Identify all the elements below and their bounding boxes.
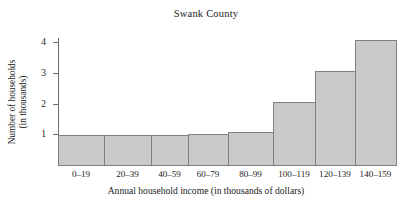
- bar-series: [58, 31, 396, 166]
- x-axis-tick-label: 0–19: [58, 168, 104, 181]
- bar: [228, 132, 274, 166]
- y-axis-label: Number of households (in thousands): [9, 36, 27, 168]
- y-axis-tick-label: 4: [41, 37, 46, 47]
- histogram-figure: Swank County Number of households (in th…: [0, 0, 412, 211]
- x-axis-tick-labels: 0–1920–3940–5960–7980–99100–119120–13914…: [58, 168, 396, 182]
- y-axis-label-line1: Number of households: [7, 60, 17, 145]
- y-axis-tick-label: 3: [41, 68, 46, 78]
- y-axis-label-line2: (in thousands): [18, 60, 29, 145]
- bar: [355, 40, 397, 166]
- plot-area: 1234: [58, 30, 396, 167]
- bar: [104, 135, 152, 166]
- chart-title: Swank County: [0, 8, 412, 19]
- bar: [188, 134, 229, 166]
- bar: [315, 71, 356, 166]
- y-axis-tick-label: 1: [41, 130, 46, 140]
- x-axis-tick-label: 100–119: [273, 168, 315, 181]
- x-axis-tick-label: 80–99: [228, 168, 273, 181]
- x-axis-label: Annual household income (in thousands of…: [0, 185, 412, 196]
- x-axis-tick-label: 20–39: [104, 168, 151, 181]
- x-axis-tick-label: 120–139: [315, 168, 355, 181]
- x-axis-tick-label: 140–159: [355, 168, 396, 181]
- bar: [151, 135, 189, 166]
- y-axis-tick-label: 2: [41, 99, 46, 109]
- bar: [58, 135, 105, 166]
- bar: [273, 102, 316, 166]
- x-axis-tick-label: 60–79: [188, 168, 228, 181]
- x-axis-tick-label: 40–59: [151, 168, 188, 181]
